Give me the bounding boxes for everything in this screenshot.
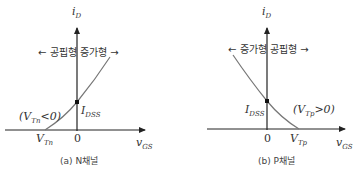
n-depletion-label: ← 공핍형	[38, 44, 77, 59]
n-caption: (a) N채널	[60, 154, 98, 167]
n-x-axis-label: vGS	[136, 136, 153, 151]
p-caption: (b) P채널	[258, 154, 295, 167]
p-depletion-label: 공핍형 →	[270, 41, 309, 56]
p-idss-point	[265, 99, 269, 103]
n-idss-point	[75, 100, 79, 104]
p-x-axis-label: vGS	[336, 136, 353, 151]
diagram-canvas	[0, 0, 357, 175]
p-transfer-curve	[233, 55, 299, 129]
n-idss-label: IDSS	[81, 104, 100, 119]
p-origin-label: 0	[264, 132, 271, 145]
p-y-axis-label: iD	[262, 5, 271, 20]
n-origin-label: 0	[74, 132, 81, 145]
n-y-axis-label: iD	[72, 5, 81, 20]
n-condition-label: (VTn<0)	[19, 110, 61, 125]
p-threshold-label: VTp	[290, 132, 307, 147]
p-enhancement-label: ← 증가형	[228, 41, 267, 56]
n-threshold-label: VTn	[36, 132, 53, 147]
n-enhancement-label: 증가형 →	[80, 44, 119, 59]
p-condition-label: (VTp>0)	[293, 103, 335, 118]
p-idss-label: IDSS	[245, 103, 264, 118]
